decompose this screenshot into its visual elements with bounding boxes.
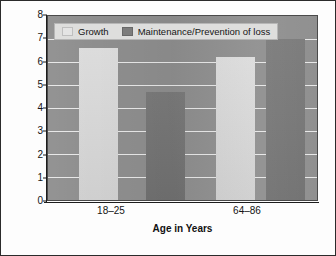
x-axis-line bbox=[44, 202, 319, 203]
y-tick-mark bbox=[43, 108, 47, 109]
bar-maintenance-18-25 bbox=[146, 92, 185, 200]
bar-chart-figure: Mean Rating Across Personal Goals 8 7 6 … bbox=[0, 0, 336, 256]
legend-label: Maintenance/Prevention of loss bbox=[138, 27, 271, 37]
y-tick-mark bbox=[43, 61, 47, 62]
chart-legend: Growth Maintenance/Prevention of loss bbox=[54, 23, 278, 40]
y-tick-mark bbox=[43, 154, 47, 155]
x-tick-label-group-2: 64–86 bbox=[233, 205, 261, 216]
y-tick-mark bbox=[43, 131, 47, 132]
legend-swatch-icon bbox=[122, 27, 133, 36]
bar-growth-64-86 bbox=[216, 57, 255, 200]
y-tick-mark bbox=[43, 84, 47, 85]
plot-area bbox=[47, 15, 318, 201]
y-tick-mark bbox=[43, 15, 47, 16]
legend-entry-growth: Growth bbox=[62, 27, 109, 37]
bar-growth-18-25 bbox=[79, 48, 118, 200]
legend-swatch-icon bbox=[62, 27, 73, 36]
y-axis-tick-labels: 8 7 6 5 4 3 2 1 0 bbox=[27, 15, 43, 201]
y-tick-mark bbox=[43, 177, 47, 178]
y-tick-mark bbox=[43, 201, 47, 202]
legend-entry-maintenance: Maintenance/Prevention of loss bbox=[122, 27, 271, 37]
x-axis-title: Age in Years bbox=[47, 223, 318, 234]
y-tick-mark bbox=[43, 38, 47, 39]
legend-label: Growth bbox=[78, 27, 109, 37]
x-tick-label-group-1: 18–25 bbox=[97, 205, 125, 216]
bar-maintenance-64-86 bbox=[266, 39, 305, 200]
y-axis-line bbox=[46, 15, 47, 203]
